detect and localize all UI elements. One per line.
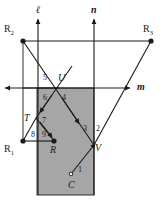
point-C-marker xyxy=(69,172,73,176)
point-R3-dot xyxy=(148,38,153,43)
ray-V-to-R3 xyxy=(94,41,151,145)
label-point-R1-base: R xyxy=(4,143,11,154)
label-point-R2: R2 xyxy=(4,24,14,37)
label-segment-1: 1 xyxy=(78,166,82,174)
label-point-C: C xyxy=(68,180,75,190)
point-R1-dot xyxy=(20,138,25,143)
label-point-V: V xyxy=(95,143,101,153)
figure-canvas xyxy=(0,0,164,206)
label-point-R2-sub: 2 xyxy=(11,29,14,36)
label-line-l: ℓ xyxy=(36,5,40,15)
label-line-m: m xyxy=(137,82,145,92)
label-point-R1: R1 xyxy=(4,144,14,157)
label-point-U: U xyxy=(58,73,65,83)
label-point-R: R xyxy=(50,145,56,155)
point-R2-dot xyxy=(20,38,25,43)
label-segment-3: 3 xyxy=(83,125,87,133)
label-point-R1-sub: 1 xyxy=(11,149,14,156)
label-point-R3-sub: 3 xyxy=(150,29,153,36)
label-segment-8: 8 xyxy=(31,131,35,139)
label-point-T: T xyxy=(24,113,30,123)
label-line-n: n xyxy=(91,5,97,15)
label-segment-9: 9 xyxy=(42,131,46,139)
label-segment-7: 7 xyxy=(42,117,46,125)
label-segment-2: 2 xyxy=(96,125,100,133)
label-point-R3-base: R xyxy=(143,23,150,34)
label-segment-4: 4 xyxy=(62,94,66,102)
label-point-R2-base: R xyxy=(4,23,11,34)
geometry-figure: ℓ n m R2 R3 R1 R U T V C 1 2 3 4 5 6 7 8… xyxy=(0,0,164,206)
label-segment-6: 6 xyxy=(43,94,47,102)
label-segment-5: 5 xyxy=(43,74,47,82)
point-R-dot xyxy=(51,138,56,143)
label-point-R3: R3 xyxy=(143,24,153,37)
